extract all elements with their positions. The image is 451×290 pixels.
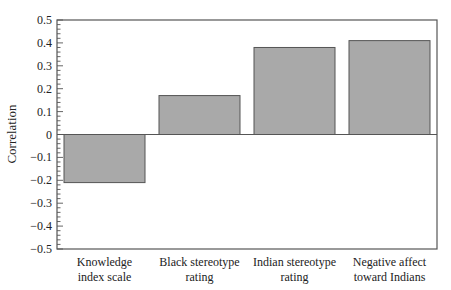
category-label: Indian stereotype xyxy=(253,255,336,269)
bar-negative-affect-toward-indians xyxy=(349,41,430,135)
category-label: rating xyxy=(186,270,214,284)
y-tick-label: −0.2 xyxy=(30,173,52,187)
y-tick-label: −0.5 xyxy=(30,242,52,256)
x-axis-category-labels: Knowledgeindex scaleBlack stereotyperati… xyxy=(77,255,427,284)
bar-knowledge-index-scale xyxy=(64,135,145,183)
y-tick-label: 0.1 xyxy=(37,105,52,119)
y-tick-label: 0.5 xyxy=(37,13,52,27)
category-label: toward Indians xyxy=(354,270,426,284)
y-tick-label: 0 xyxy=(46,128,52,142)
bars xyxy=(64,41,430,183)
y-tick-label: 0.4 xyxy=(37,36,52,50)
bar-indian-stereotype-rating xyxy=(254,47,335,134)
y-tick-label: −0.1 xyxy=(30,150,52,164)
correlation-bar-chart: 0.50.40.30.20.10−0.1−0.2−0.3−0.4−0.5 Kno… xyxy=(0,0,451,290)
category-label: Knowledge xyxy=(77,255,132,269)
category-label: Negative affect xyxy=(353,255,427,269)
y-tick-label: −0.4 xyxy=(30,219,52,233)
y-tick-label: 0.2 xyxy=(37,82,52,96)
y-axis-tick-labels: 0.50.40.30.20.10−0.1−0.2−0.3−0.4−0.5 xyxy=(30,13,52,256)
y-tick-label: −0.3 xyxy=(30,196,52,210)
y-tick-label: 0.3 xyxy=(37,59,52,73)
category-label: Black stereotype xyxy=(159,255,239,269)
bar-black-stereotype-rating xyxy=(159,96,240,135)
category-label: rating xyxy=(281,270,309,284)
category-label: index scale xyxy=(78,270,132,284)
y-axis-title: Correlation xyxy=(4,104,19,164)
